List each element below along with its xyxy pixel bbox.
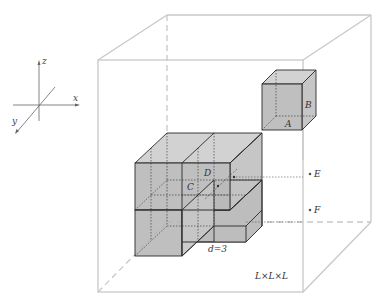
y-axis-label: y bbox=[11, 116, 18, 126]
diagram-canvas: z x y A B bbox=[0, 0, 383, 307]
label-a: A bbox=[284, 119, 292, 129]
point-e bbox=[309, 173, 312, 176]
label-c: C bbox=[187, 182, 194, 192]
point-c bbox=[217, 185, 219, 187]
label-e: E bbox=[313, 169, 321, 179]
label-b: B bbox=[304, 100, 312, 110]
container-label: L×L×L bbox=[254, 271, 288, 281]
label-d: D bbox=[203, 168, 211, 178]
label-f: F bbox=[313, 205, 321, 215]
axes-icon bbox=[13, 60, 80, 134]
point-f bbox=[309, 209, 312, 212]
x-axis-label: x bbox=[73, 93, 78, 103]
cube-cluster bbox=[135, 133, 262, 256]
dimension-label: d=3 bbox=[208, 244, 227, 254]
z-axis-label: z bbox=[41, 56, 47, 66]
point-d bbox=[233, 176, 235, 178]
